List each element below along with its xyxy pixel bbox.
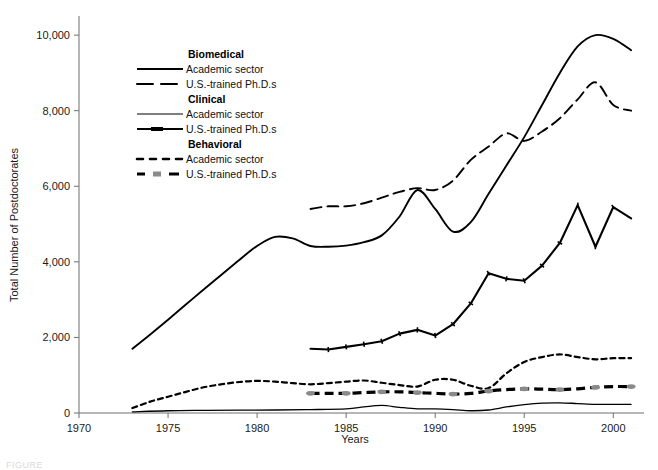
series-biomedical-usphd — [311, 82, 632, 209]
legend-group-title: Clinical — [188, 93, 225, 105]
legend-group-biomedical: Biomedical — [188, 48, 244, 60]
data-point-marker — [591, 385, 600, 390]
data-point-tick — [577, 203, 578, 208]
series-line — [311, 82, 632, 209]
legend-entry[interactable]: Academic sector — [137, 63, 264, 75]
data-point-tick — [399, 331, 401, 336]
legend-entry[interactable]: Academic sector — [137, 153, 264, 165]
chart-legend: BiomedicalAcademic sectorU.S.-trained Ph… — [137, 48, 276, 180]
legend-group-title: Biomedical — [188, 48, 244, 60]
y-tick-label: 8,000 — [42, 105, 70, 117]
y-tick-label: 4,000 — [42, 256, 70, 268]
series-clinical-academic — [132, 403, 631, 412]
legend-group-behavioral: Behavioral — [188, 138, 242, 150]
postdoctorates-line-chart: 02,0004,0006,0008,00010,000 197019751980… — [0, 0, 658, 448]
x-tick-label: 1995 — [512, 422, 536, 434]
series-line — [132, 403, 631, 412]
legend-entry-label: Academic sector — [186, 108, 264, 120]
data-point-tick — [435, 333, 436, 338]
x-axis-title: Years — [341, 433, 369, 445]
data-point-marker — [627, 384, 636, 389]
legend-entry-label: U.S.-trained Ph.D.s — [186, 168, 276, 180]
x-tick-label: 1980 — [245, 422, 269, 434]
data-point-tick — [506, 276, 507, 281]
data-series-group — [132, 35, 635, 412]
data-point-marker — [484, 389, 493, 394]
data-point-tick — [346, 344, 347, 349]
series-line — [132, 354, 631, 408]
x-tick-label: 1975 — [156, 422, 180, 434]
figure-caption: FIGURE — [6, 460, 43, 470]
y-tick-labels: 02,0004,0006,0008,00010,000 — [36, 29, 70, 419]
legend-entry[interactable]: U.S.-trained Ph.D.s — [137, 123, 276, 135]
series-behavioral-academic — [132, 354, 631, 408]
data-point-marker — [449, 392, 458, 397]
legend-entry-label: U.S.-trained Ph.D.s — [186, 123, 276, 135]
x-tick-label: 2000 — [601, 422, 625, 434]
data-point-tick — [364, 342, 365, 347]
legend-entry[interactable]: U.S.-trained Ph.D.s — [137, 78, 276, 90]
data-point-marker — [555, 387, 564, 392]
data-point-marker — [342, 391, 351, 396]
legend-entry[interactable]: U.S.-trained Ph.D.s — [137, 168, 276, 180]
y-tick-label: 10,000 — [36, 29, 70, 41]
legend-entry-label: Academic sector — [186, 153, 264, 165]
data-point-marker — [306, 391, 315, 396]
chart-page: 02,0004,0006,0008,00010,000 197019751980… — [0, 0, 658, 470]
legend-entry[interactable]: Academic sector — [137, 108, 264, 120]
legend-entry-label: Academic sector — [186, 63, 264, 75]
legend-entry-label: U.S.-trained Ph.D.s — [186, 78, 276, 90]
x-tick-label: 1990 — [423, 422, 447, 434]
x-tick-label: 1970 — [67, 422, 91, 434]
data-point-marker — [377, 389, 386, 394]
y-tick-label: 2,000 — [42, 331, 70, 343]
y-tick-label: 0 — [64, 407, 70, 419]
data-point-marker — [520, 386, 529, 391]
legend-group-title: Behavioral — [188, 138, 242, 150]
y-tick-label: 6,000 — [42, 180, 70, 192]
data-point-tick — [381, 339, 382, 344]
series-clinical-usphd — [311, 203, 632, 353]
legend-group-clinical: Clinical — [188, 93, 225, 105]
series-line — [311, 386, 632, 394]
y-axis-title: Total Number of Postdoctorates — [8, 147, 20, 302]
series-line — [311, 205, 632, 349]
data-point-marker — [413, 390, 422, 395]
